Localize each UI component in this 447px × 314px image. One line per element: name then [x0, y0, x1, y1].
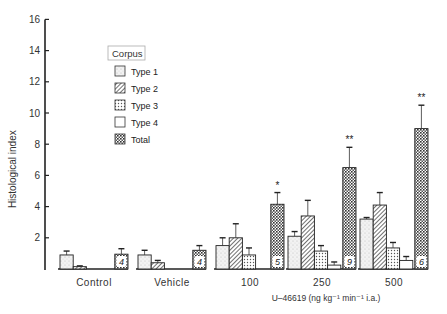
n-label: 4: [119, 257, 124, 267]
y-tick-label: 6: [34, 170, 40, 181]
legend-label: Type 3: [131, 101, 158, 111]
legend-swatch-total: [115, 134, 125, 144]
x-category-label: 500: [385, 277, 403, 288]
y-tick-label: 14: [29, 45, 41, 56]
bar-type-3: [242, 255, 255, 269]
bar-type-2: [151, 263, 164, 269]
n-label: 4: [197, 257, 202, 267]
bar-type-2: [229, 238, 242, 269]
legend-label: Type 4: [131, 118, 158, 128]
bar-type-1: [288, 236, 301, 269]
legend-swatch-type-4: [115, 117, 125, 127]
n-label: 9: [347, 257, 352, 267]
y-tick-label: 8: [34, 139, 40, 150]
significance-marker: *: [275, 180, 279, 191]
bar-group-vehicle: 4: [138, 246, 206, 269]
y-tick-label: 10: [29, 108, 41, 119]
y-tick-label: 2: [34, 232, 40, 243]
y-tick-label: 12: [29, 76, 41, 87]
x-category-label: Control: [76, 277, 112, 288]
bar-type-2: [301, 216, 314, 269]
legend-label: Type 1: [131, 67, 158, 77]
bar-type-3: [314, 251, 327, 269]
bar-type-1: [138, 255, 151, 269]
bar-total: [343, 168, 356, 269]
bar-type-1: [216, 246, 229, 269]
bar-type-1: [360, 219, 373, 269]
bar-type-2: [373, 205, 386, 269]
bar-type-3: [386, 248, 399, 269]
n-label: 6: [419, 257, 424, 267]
legend-title: Corpus: [112, 48, 143, 59]
bar-group-100: 5*: [216, 180, 284, 269]
bar-group-500: 6**: [360, 92, 428, 269]
x-axis-title: U–46619 (ng kg⁻¹ min⁻¹ i.a.): [272, 293, 381, 303]
bar-group-control: 4: [60, 249, 128, 269]
bar-chart: 246810121416Histological index 4Control4…: [0, 0, 447, 314]
legend-swatch-type-3: [115, 100, 125, 110]
y-tick-label: 16: [29, 14, 41, 25]
x-category-label: Vehicle: [154, 277, 190, 288]
bar-type-1: [60, 255, 73, 269]
significance-marker: **: [346, 134, 354, 145]
significance-marker: **: [418, 92, 426, 103]
y-axis-title: Histological index: [7, 130, 18, 208]
bar-type-2: [73, 267, 86, 269]
legend: CorpusType 1Type 2Type 3Type 4Total: [108, 46, 158, 145]
bar-total: [415, 129, 428, 269]
x-category-label: 250: [313, 277, 331, 288]
x-category-label: 100: [241, 277, 259, 288]
y-tick-label: 4: [34, 201, 40, 212]
legend-swatch-type-1: [115, 66, 125, 76]
legend-swatch-type-2: [115, 83, 125, 93]
bar-group-250: 9**: [288, 134, 356, 269]
legend-label: Total: [131, 135, 150, 145]
bar-type-4: [400, 260, 413, 269]
legend-label: Type 2: [131, 84, 158, 94]
bar-type-4: [328, 265, 341, 269]
